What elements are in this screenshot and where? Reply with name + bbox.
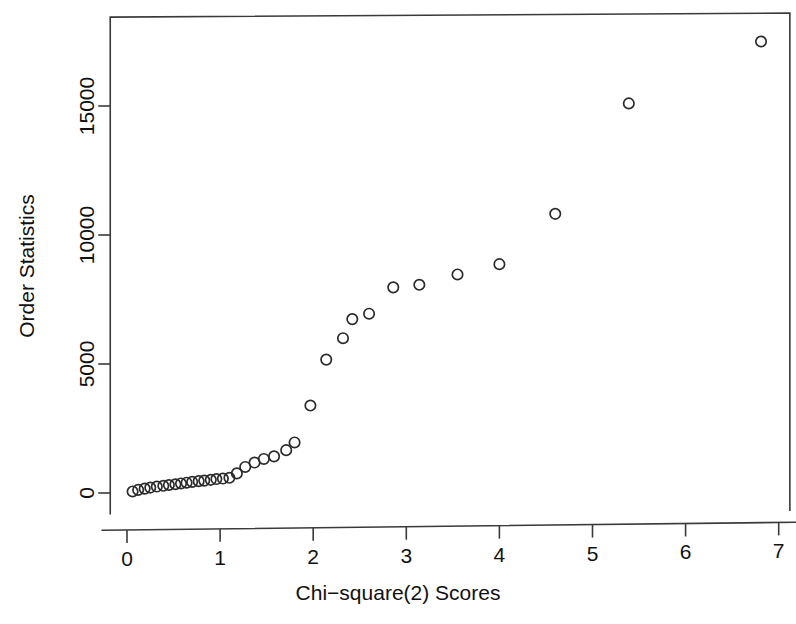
x-tick-label: 1 — [214, 546, 226, 569]
data-point — [347, 314, 357, 324]
data-point — [756, 36, 766, 46]
x-axis-ticks: 01234567 — [121, 522, 784, 570]
x-axis-line — [102, 522, 796, 530]
x-tick-label: 4 — [494, 543, 506, 566]
x-tick-label: 5 — [587, 542, 599, 565]
x-axis-title: Chi−square(2) Scores — [296, 581, 501, 604]
data-point — [624, 98, 634, 108]
chart-canvas: 050001000015000 01234567 Chi−square(2) S… — [0, 0, 796, 624]
plot-frame — [110, 13, 790, 514]
y-tick-label: 10000 — [75, 206, 98, 264]
y-tick-label: 0 — [75, 487, 98, 499]
data-point — [550, 209, 560, 219]
x-tick-label: 7 — [773, 539, 785, 562]
x-tick-label: 2 — [307, 545, 319, 568]
data-point — [494, 259, 504, 269]
y-tick-label: 5000 — [75, 341, 98, 388]
y-tick-label: 15000 — [75, 77, 98, 135]
data-point — [321, 354, 331, 364]
x-axis-group — [102, 522, 796, 530]
y-axis-ticks: 050001000015000 — [75, 77, 110, 499]
data-point — [452, 269, 462, 279]
x-tick-label: 0 — [121, 547, 133, 570]
data-point — [305, 400, 315, 410]
x-tick-label: 6 — [680, 540, 692, 563]
x-tick-label: 3 — [400, 544, 412, 567]
data-points-layer — [127, 36, 766, 496]
data-point — [281, 445, 291, 455]
data-point — [388, 282, 398, 292]
data-point — [338, 333, 348, 343]
plot-border — [110, 13, 790, 514]
data-point — [269, 451, 279, 461]
qq-plot-figure: 050001000015000 01234567 Chi−square(2) S… — [0, 0, 796, 624]
data-point — [364, 308, 374, 318]
data-point — [259, 454, 269, 464]
data-point — [414, 280, 424, 290]
y-axis-title: Order Statistics — [15, 194, 38, 338]
data-point — [289, 437, 299, 447]
